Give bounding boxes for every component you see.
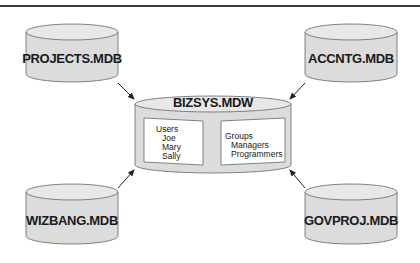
database-wizbang: WIZBANG.MDB	[26, 184, 118, 244]
workgroup-label: BIZSYS.MDW	[173, 95, 254, 110]
database-label: WIZBANG.MDB	[26, 213, 118, 228]
user-item: Sally	[162, 151, 181, 161]
group-item: Programmers	[231, 149, 282, 159]
database-govproj: GOVPROJ.MDB	[304, 184, 398, 244]
database-label: PROJECTS.MDB	[22, 51, 122, 66]
users-panel: Users Joe Mary Sally	[144, 118, 203, 165]
arrow-projects-to-bizsys	[118, 83, 134, 99]
database-accntg: ACCNTG.MDB	[305, 24, 397, 82]
arrow-govproj-to-bizsys	[290, 170, 305, 188]
workgroup-bizsys: BIZSYS.MDW Users Joe Mary Sally Groups M…	[135, 95, 291, 173]
arrow-accntg-to-bizsys	[290, 83, 305, 99]
diagram-canvas: PROJECTS.MDB ACCNTG.MDB WIZBANG.MDB GOVP…	[0, 0, 420, 263]
database-projects: PROJECTS.MDB	[22, 24, 122, 82]
database-label: GOVPROJ.MDB	[304, 213, 398, 228]
database-label: ACCNTG.MDB	[308, 51, 394, 66]
groups-panel: Groups Managers Programmers	[221, 118, 285, 165]
arrow-wizbang-to-bizsys	[118, 170, 134, 188]
